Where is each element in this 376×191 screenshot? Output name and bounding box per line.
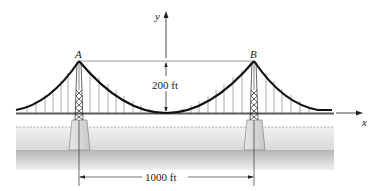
pier-b	[244, 120, 265, 150]
y-axis	[164, 11, 169, 58]
pier-a	[69, 120, 90, 150]
label-point-a: A	[74, 48, 82, 60]
bridge-diagram: A B y x 200 ft 1000 ft	[0, 0, 376, 191]
water	[16, 127, 334, 170]
label-span-1000ft: 1000 ft	[145, 171, 176, 183]
tower-b	[250, 62, 258, 120]
label-y-axis: y	[154, 10, 160, 22]
tower-a	[75, 62, 83, 120]
label-point-b: B	[250, 48, 257, 60]
x-axis	[336, 111, 363, 116]
label-sag-200ft: 200 ft	[152, 79, 178, 91]
label-x-axis: x	[361, 116, 367, 128]
